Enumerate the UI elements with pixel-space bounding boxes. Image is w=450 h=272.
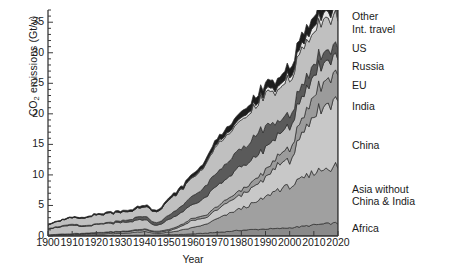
stacked-area-chart: [0, 0, 450, 272]
chart-area-bands: [48, 0, 338, 236]
